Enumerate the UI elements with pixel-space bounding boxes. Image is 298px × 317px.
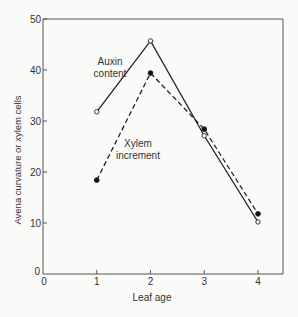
y-tick-label: 0 [34, 266, 40, 277]
line-chart: 01020304050 01234 Auxin content Xylem in… [0, 0, 298, 317]
y-tick-label: 50 [30, 14, 42, 25]
y-tick-label: 10 [30, 218, 42, 229]
open-circle-marker [202, 134, 206, 138]
xylem-label-line2: increment [116, 150, 160, 161]
auxin-label-line1: Auxin [97, 56, 122, 67]
filled-circle-marker [94, 178, 99, 183]
x-tick-label: 0 [41, 276, 47, 287]
open-circle-marker [95, 110, 99, 114]
open-circle-marker [256, 220, 260, 224]
auxin-label-line2: content [94, 68, 127, 79]
y-axis-title: Avena curvature or xylem cells [12, 95, 23, 224]
filled-circle-marker [148, 71, 153, 76]
x-tick-label: 4 [255, 276, 261, 287]
y-ticks: 01020304050 [30, 14, 47, 278]
x-tick-label: 3 [201, 276, 207, 287]
x-tick-label: 1 [94, 276, 100, 287]
y-tick-label: 40 [30, 65, 42, 76]
x-axis-title: Leaf age [133, 292, 172, 303]
plot-frame [43, 19, 283, 274]
y-tick-label: 20 [30, 167, 42, 178]
y-tick-label: 30 [30, 116, 42, 127]
x-ticks: 01234 [41, 270, 261, 287]
xylem-label-line1: Xylem [124, 138, 152, 149]
open-circle-marker [148, 39, 152, 43]
filled-circle-marker [256, 211, 261, 216]
chart-page: 01020304050 01234 Auxin content Xylem in… [0, 0, 298, 317]
filled-circle-marker [202, 127, 207, 132]
series-xylem-increment [94, 71, 260, 217]
x-tick-label: 2 [148, 276, 154, 287]
